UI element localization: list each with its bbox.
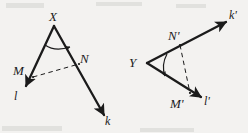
point-n-prime-marker <box>179 44 181 46</box>
label-l-prime-ray: l' <box>204 95 210 107</box>
point-m-marker <box>32 76 34 78</box>
label-n-point: N <box>80 52 89 65</box>
ray-k-prime-segment <box>147 22 226 63</box>
geometry-canvas <box>0 0 248 133</box>
ray-k-segment <box>54 26 104 115</box>
dashed-segment-mn <box>33 64 79 77</box>
label-k-ray: k <box>105 115 110 127</box>
label-m-prime-point: M' <box>170 97 184 110</box>
point-m-prime-marker <box>189 92 191 94</box>
ray-l-prime-segment <box>147 63 201 97</box>
ray-l-segment <box>26 26 54 86</box>
label-l-ray: l <box>14 90 17 102</box>
label-m-point: M <box>13 64 24 77</box>
angle-arc-y <box>163 54 167 76</box>
angle-y-group <box>147 22 226 97</box>
label-x-vertex: X <box>49 10 57 23</box>
angle-x-group <box>26 26 104 115</box>
geometry-figure: X M N l k Y N' M' k' l' <box>0 0 248 133</box>
label-y-vertex: Y <box>129 56 136 69</box>
label-k-prime-ray: k' <box>229 9 237 21</box>
label-n-prime-point: N' <box>168 29 179 42</box>
